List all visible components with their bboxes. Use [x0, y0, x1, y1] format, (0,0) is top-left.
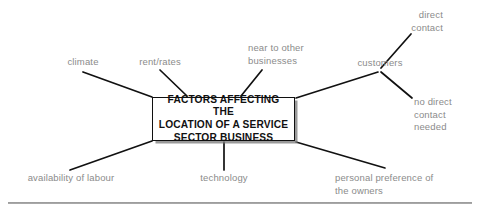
node-personal-preference-of-the-owners[interactable]: personal preference of the owners: [335, 172, 457, 197]
connector-customers-to-no-direct-contact: [381, 72, 412, 98]
node-near-to-other-businesses[interactable]: near to other businesses: [248, 42, 338, 67]
diagram-canvas: climate rent/rates near to other busines…: [0, 0, 480, 215]
connector-near-businesses-to-center: [241, 70, 262, 96]
node-availability-of-labour[interactable]: availability of labour: [14, 172, 128, 185]
connector-customers-to-center: [296, 72, 378, 98]
center-topic-box[interactable]: FACTORS AFFECTING THE LOCATION OF A SERV…: [152, 97, 295, 141]
node-climate[interactable]: climate: [45, 56, 121, 69]
connector-personal-preference-to-center: [296, 142, 385, 168]
node-technology[interactable]: technology: [186, 172, 262, 185]
node-no-direct-contact-needed[interactable]: no direct contact needed: [414, 96, 478, 134]
node-rent-rates[interactable]: rent/rates: [122, 56, 198, 69]
center-topic-label: FACTORS AFFECTING THE LOCATION OF A SERV…: [153, 94, 294, 144]
connector-climate-to-center: [83, 72, 152, 97]
footer-divider-rule: [8, 202, 472, 204]
node-direct-contact[interactable]: direct contact: [373, 9, 443, 34]
connector-rent-rates-to-center: [160, 70, 187, 96]
connector-labour-to-center: [70, 141, 152, 170]
node-customers[interactable]: customers: [342, 57, 418, 70]
